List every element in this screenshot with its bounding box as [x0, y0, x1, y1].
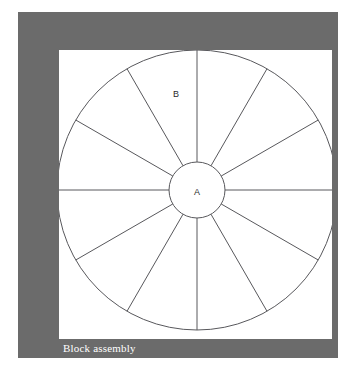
- block-assembly-drawing: A B: [59, 50, 332, 339]
- spoke-300: [211, 214, 267, 311]
- spoke-30: [221, 120, 318, 176]
- figure-frame: A B Block assembly: [18, 12, 338, 358]
- spoke-330: [221, 204, 318, 260]
- spoke-120: [127, 69, 183, 166]
- spoke-150: [76, 120, 173, 176]
- spoke-210: [76, 204, 173, 260]
- figure-caption: Block assembly: [63, 342, 136, 355]
- sector-label: B: [173, 89, 179, 99]
- figure-page: A B Block assembly: [0, 0, 351, 373]
- hub-label: A: [194, 187, 200, 197]
- spoke-60: [211, 69, 267, 166]
- drawing-plate: A B: [59, 50, 332, 339]
- spoke-240: [127, 214, 183, 311]
